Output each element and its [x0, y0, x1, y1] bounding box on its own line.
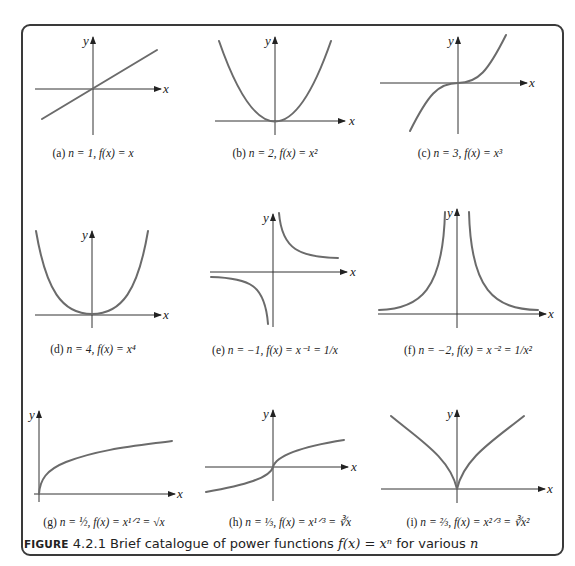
panel-n-value: n = −1,	[228, 344, 264, 356]
panel-formula: f(x) = x⁴	[97, 343, 136, 355]
panel-c-plot: x y	[380, 33, 535, 134]
panel-c-caption: (c) n = 3, f(x) = x³	[418, 147, 502, 159]
panel-formula: f(x) = x⁻² = 1/x²	[457, 344, 532, 356]
panel-tag: (d)	[50, 343, 63, 355]
x-axis-label: x	[176, 486, 183, 501]
figure-caption: FIGURE 4.2.1 Brief catalogue of power fu…	[24, 536, 478, 551]
panel-n-value: n = ⅔,	[420, 516, 451, 528]
y-axis-label: y	[263, 33, 271, 48]
x-axis-label: x	[162, 307, 169, 322]
y-axis-label: y	[446, 33, 454, 48]
figure-math: f(x) = xⁿ	[338, 536, 392, 551]
panel-a-plot: x y	[35, 33, 169, 135]
x-axis-label: x	[350, 459, 357, 474]
y-axis-label: y	[27, 407, 35, 422]
panel-e-caption: (e) n = −1, f(x) = x⁻¹ = 1/x	[212, 343, 338, 357]
panel-tag: (e)	[212, 344, 225, 356]
panel-formula: f(x) = x¹ᐟ² = √x	[93, 516, 164, 528]
panel-f-caption: (f) n = −2, f(x) = x⁻² = 1/x²	[404, 343, 532, 357]
x-axis-label: x	[348, 113, 355, 128]
panel-d-plot: x y	[35, 227, 169, 328]
curve-inverse-square-right	[469, 212, 538, 310]
panel-tag: (g)	[43, 516, 56, 528]
panel-formula: f(x) = x	[99, 147, 134, 159]
y-axis-label: y	[261, 210, 269, 225]
panel-g-plot: x y	[27, 407, 183, 502]
panel-formula: f(x) = x⁻¹ = 1/x	[266, 344, 338, 356]
panel-formula: f(x) = x¹ᐟ³ = ∛x	[279, 516, 351, 528]
panel-d-caption: (d) n = 4, f(x) = x⁴	[50, 343, 136, 355]
panel-formula: f(x) = x³	[464, 147, 502, 159]
panel-g-caption: (g) n = ½, f(x) = x¹ᐟ² = √x	[43, 515, 164, 529]
panel-tag: (h)	[229, 516, 242, 528]
panel-tag: (a)	[53, 147, 66, 159]
panel-i-plot: x y	[381, 406, 553, 503]
panel-f-plot: x y	[378, 205, 554, 328]
y-axis-label: y	[445, 406, 453, 421]
panel-n-value: n = 4,	[66, 343, 94, 355]
panel-tag: (i)	[407, 516, 418, 528]
panel-tag: (b)	[232, 147, 245, 159]
panel-n-value: n = ½,	[60, 516, 91, 528]
x-axis-label: x	[528, 75, 535, 90]
panel-n-value: n = 3,	[433, 147, 461, 159]
y-axis-label: y	[261, 406, 269, 421]
figure-suffix-var: n	[470, 536, 478, 551]
panel-b-plot: x y	[215, 33, 355, 135]
panel-tag: (f)	[404, 344, 416, 356]
power-function-plots: x y x y x y x y x y x y	[0, 0, 575, 566]
figure-label: FIGURE	[24, 538, 69, 550]
x-axis-label: x	[547, 306, 554, 321]
figure-text: Brief catalogue of power functions	[110, 536, 334, 551]
curve-linear	[42, 50, 157, 119]
y-axis-label: y	[445, 205, 453, 220]
curve-two-thirds-right	[457, 416, 524, 489]
x-axis-label: x	[349, 264, 356, 279]
panel-h-plot: x y	[205, 406, 357, 501]
panel-n-value: n = 2,	[249, 147, 277, 159]
panel-e-plot: x y	[210, 210, 356, 327]
curve-inverse-square-left	[379, 212, 445, 310]
panel-b-caption: (b) n = 2, f(x) = x²	[232, 147, 317, 159]
y-axis-label: y	[80, 227, 88, 242]
panel-formula: f(x) = x²	[280, 147, 318, 159]
curve-square-root	[39, 441, 172, 494]
curve-reciprocal-negative	[211, 277, 268, 324]
figure-suffix: for various	[396, 536, 466, 551]
figure-number: 4.2.1	[73, 536, 106, 551]
panel-formula: f(x) = x²ᐟ³ = ∛x²	[454, 516, 530, 528]
x-axis-label: x	[546, 481, 553, 496]
panel-h-caption: (h) n = ⅓, f(x) = x¹ᐟ³ = ∛x	[229, 515, 351, 529]
x-axis-label: x	[162, 81, 169, 96]
panel-n-value: n = 1,	[68, 147, 96, 159]
panel-tag: (c)	[418, 147, 431, 159]
curve-cube-root	[206, 440, 344, 492]
curve-two-thirds-left	[391, 416, 457, 489]
y-axis-label: y	[81, 33, 89, 48]
panel-n-value: n = −2,	[418, 344, 454, 356]
panel-n-value: n = ⅓,	[245, 516, 276, 528]
panel-i-caption: (i) n = ⅔, f(x) = x²ᐟ³ = ∛x²	[407, 515, 530, 529]
panel-a-caption: (a) n = 1, f(x) = x	[53, 147, 134, 159]
curve-reciprocal-positive	[279, 213, 338, 258]
